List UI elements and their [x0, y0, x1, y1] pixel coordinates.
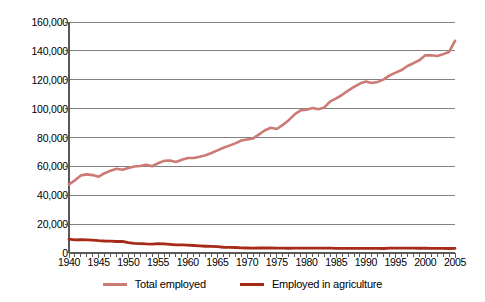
legend-swatch-icon	[103, 283, 127, 286]
chart-legend: Total employedEmployed in agriculture	[0, 274, 485, 294]
legend-swatch-icon	[240, 283, 264, 286]
series-line-employed-in-agriculture	[69, 239, 455, 248]
series-line-total-employed	[69, 41, 455, 185]
x-tick-label: 2005	[435, 256, 475, 268]
employment-line-chart: Number (in thousands) 020,00040,00060,00…	[0, 0, 485, 302]
legend-label: Employed in agriculture	[272, 278, 382, 290]
legend-item: Total employed	[103, 278, 206, 290]
legend-item: Employed in agriculture	[240, 278, 382, 290]
legend-label: Total employed	[135, 278, 206, 290]
